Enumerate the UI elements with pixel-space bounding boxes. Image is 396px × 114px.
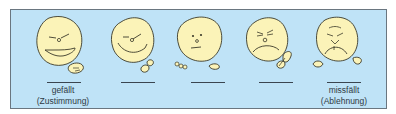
- happy-face-icon: [101, 10, 177, 82]
- scale-label-positive: gefällt (Zustimmung): [25, 85, 101, 107]
- rating-blank-line: [121, 82, 155, 83]
- rating-option-unhappy[interactable]: [237, 10, 313, 110]
- rating-option-happy[interactable]: [101, 10, 177, 110]
- rating-scale-panel: gefällt (Zustimmung): [10, 9, 387, 109]
- rating-blank-line: [259, 82, 293, 83]
- very-unhappy-face-icon: [305, 10, 381, 82]
- label-zustimmung: (Zustimmung): [25, 96, 101, 107]
- label-missfaellt: missfällt: [306, 85, 382, 96]
- label-ablehnung: (Ablehnung): [306, 96, 382, 107]
- scale-label-negative: missfällt (Ablehnung): [306, 85, 382, 107]
- rating-blank-line: [191, 82, 225, 83]
- label-gefaellt: gefällt: [25, 85, 101, 96]
- neutral-face-icon: [169, 10, 245, 82]
- unhappy-face-icon: [237, 10, 313, 82]
- very-happy-face-icon: [25, 10, 101, 82]
- rating-option-very-unhappy[interactable]: missfällt (Ablehnung): [305, 10, 381, 110]
- rating-blank-line: [327, 82, 361, 83]
- rating-option-very-happy[interactable]: gefällt (Zustimmung): [25, 10, 101, 110]
- rating-blank-line: [47, 82, 81, 83]
- rating-option-neutral[interactable]: [169, 10, 245, 110]
